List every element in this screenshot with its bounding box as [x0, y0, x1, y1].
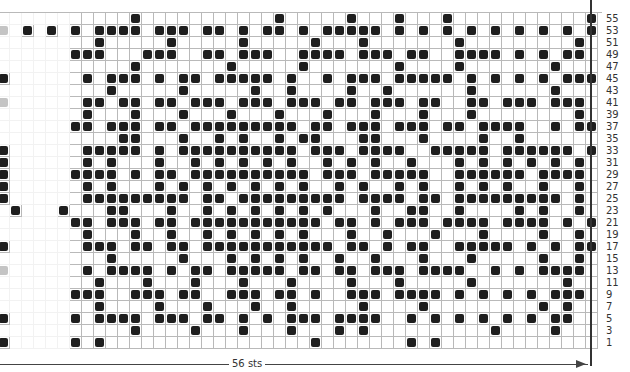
- empty-stitch-cell: [526, 109, 538, 121]
- filled-stitch-cell: [118, 121, 130, 133]
- empty-stitch-cell: [214, 289, 226, 301]
- filled-stitch-cell: [286, 85, 298, 97]
- empty-stitch-cell: [178, 13, 190, 25]
- row-label: 25: [606, 193, 619, 205]
- empty-stitch-cell: [334, 109, 346, 121]
- empty-stitch-cell: [454, 277, 466, 289]
- empty-stitch-cell: [274, 157, 286, 169]
- filled-stitch-cell: [166, 241, 178, 253]
- filled-stitch-cell: [406, 313, 418, 325]
- empty-stitch-cell: [550, 37, 562, 49]
- filled-stitch-cell: [274, 193, 286, 205]
- empty-stitch-cell: [142, 325, 154, 337]
- empty-stitch-cell: [502, 85, 514, 97]
- empty-stitch-cell: [310, 157, 322, 169]
- filled-stitch-cell: [166, 97, 178, 109]
- filled-stitch-cell: [286, 217, 298, 229]
- filled-stitch-cell: [118, 133, 130, 145]
- chart-row: [0, 97, 598, 109]
- empty-stitch-cell: [190, 301, 202, 313]
- filled-stitch-cell: [562, 277, 574, 289]
- chart-row: [0, 61, 598, 73]
- row-label: 37: [606, 121, 619, 133]
- empty-stitch-cell: [34, 265, 46, 277]
- filled-stitch-cell: [70, 49, 82, 61]
- filled-stitch-cell: [418, 181, 430, 193]
- filled-stitch-cell: [334, 97, 346, 109]
- filled-stitch-cell: [274, 229, 286, 241]
- empty-stitch-cell: [58, 337, 70, 349]
- empty-stitch-cell: [154, 253, 166, 265]
- filled-stitch-cell: [382, 49, 394, 61]
- empty-stitch-cell: [442, 169, 454, 181]
- empty-stitch-cell: [526, 85, 538, 97]
- filled-stitch-cell: [574, 253, 586, 265]
- filled-stitch-cell: [298, 169, 310, 181]
- empty-stitch-cell: [0, 217, 10, 229]
- empty-stitch-cell: [310, 277, 322, 289]
- filled-stitch-cell: [406, 337, 418, 349]
- empty-stitch-cell: [202, 37, 214, 49]
- filled-stitch-cell: [106, 205, 118, 217]
- empty-stitch-cell: [442, 301, 454, 313]
- empty-stitch-cell: [46, 133, 58, 145]
- filled-stitch-cell: [478, 145, 490, 157]
- filled-stitch-cell: [214, 49, 226, 61]
- empty-stitch-cell: [82, 205, 94, 217]
- filled-stitch-cell: [466, 217, 478, 229]
- filled-stitch-cell: [490, 25, 502, 37]
- filled-stitch-cell: [274, 265, 286, 277]
- filled-stitch-cell: [310, 313, 322, 325]
- filled-stitch-cell: [130, 109, 142, 121]
- chart-row: [0, 49, 598, 61]
- filled-stitch-cell: [250, 121, 262, 133]
- filled-stitch-cell: [334, 313, 346, 325]
- empty-stitch-cell: [562, 121, 574, 133]
- empty-stitch-cell: [238, 13, 250, 25]
- empty-stitch-cell: [22, 265, 34, 277]
- filled-stitch-cell: [262, 121, 274, 133]
- empty-stitch-cell: [394, 253, 406, 265]
- filled-stitch-cell: [406, 289, 418, 301]
- filled-stitch-cell: [550, 121, 562, 133]
- empty-stitch-cell: [370, 37, 382, 49]
- empty-stitch-cell: [430, 217, 442, 229]
- filled-stitch-cell: [298, 193, 310, 205]
- empty-stitch-cell: [346, 61, 358, 73]
- empty-stitch-cell: [514, 241, 526, 253]
- filled-stitch-cell: [178, 193, 190, 205]
- empty-stitch-cell: [34, 289, 46, 301]
- empty-stitch-cell: [94, 181, 106, 193]
- empty-stitch-cell: [538, 61, 550, 73]
- empty-stitch-cell: [118, 337, 130, 349]
- empty-stitch-cell: [430, 37, 442, 49]
- empty-stitch-cell: [286, 265, 298, 277]
- chart-row: [0, 145, 598, 157]
- filled-stitch-cell: [94, 49, 106, 61]
- empty-stitch-cell: [46, 241, 58, 253]
- filled-stitch-cell: [574, 169, 586, 181]
- empty-stitch-cell: [406, 277, 418, 289]
- filled-stitch-cell: [226, 289, 238, 301]
- empty-stitch-cell: [442, 229, 454, 241]
- empty-stitch-cell: [298, 73, 310, 85]
- empty-stitch-cell: [250, 109, 262, 121]
- filled-stitch-cell: [466, 49, 478, 61]
- empty-stitch-cell: [502, 337, 514, 349]
- empty-stitch-cell: [418, 277, 430, 289]
- empty-stitch-cell: [286, 37, 298, 49]
- empty-stitch-cell: [286, 13, 298, 25]
- empty-stitch-cell: [202, 73, 214, 85]
- filled-stitch-cell: [202, 205, 214, 217]
- filled-stitch-cell: [202, 229, 214, 241]
- empty-stitch-cell: [454, 253, 466, 265]
- filled-stitch-cell: [454, 61, 466, 73]
- empty-stitch-cell: [58, 181, 70, 193]
- empty-stitch-cell: [370, 241, 382, 253]
- empty-stitch-cell: [418, 325, 430, 337]
- empty-stitch-cell: [214, 277, 226, 289]
- empty-stitch-cell: [286, 133, 298, 145]
- filled-stitch-cell: [550, 193, 562, 205]
- empty-stitch-cell: [538, 109, 550, 121]
- empty-stitch-cell: [310, 169, 322, 181]
